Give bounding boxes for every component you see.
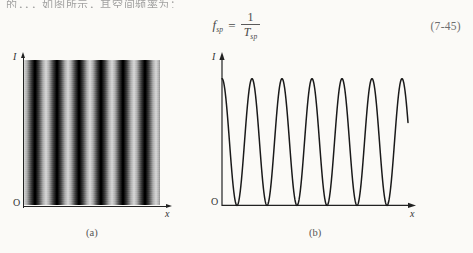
figure-b-y-axis-arrow (219, 52, 224, 60)
figure-a-y-axis-label: I (13, 51, 16, 62)
fringe-grain-overlay (24, 60, 160, 205)
figure-b-caption: (b) (309, 227, 321, 238)
figure-b-x-axis-label: x (410, 208, 414, 219)
fringe-pattern-image (24, 60, 160, 205)
figure-a-y-axis-arrow (21, 52, 25, 58)
figure-b-plot (180, 0, 473, 253)
figure-a: I x O (a) (0, 0, 180, 253)
figure-a-x-axis (23, 206, 167, 207)
figure-a-x-axis-label: x (165, 208, 169, 219)
figure-a-origin-label: O (13, 197, 20, 208)
figure-b: I x O (b) (180, 0, 473, 253)
figure-a-y-axis (23, 57, 24, 208)
textbook-page: 的，，，如图所示，其空间频率为： fsp = 1 Tsp (7-45) I x … (0, 0, 473, 253)
intensity-curve (222, 79, 408, 206)
figure-b-y-axis-label: I (212, 51, 215, 62)
figure-b-origin-label: O (211, 196, 218, 207)
figure-a-caption: (a) (86, 227, 98, 238)
